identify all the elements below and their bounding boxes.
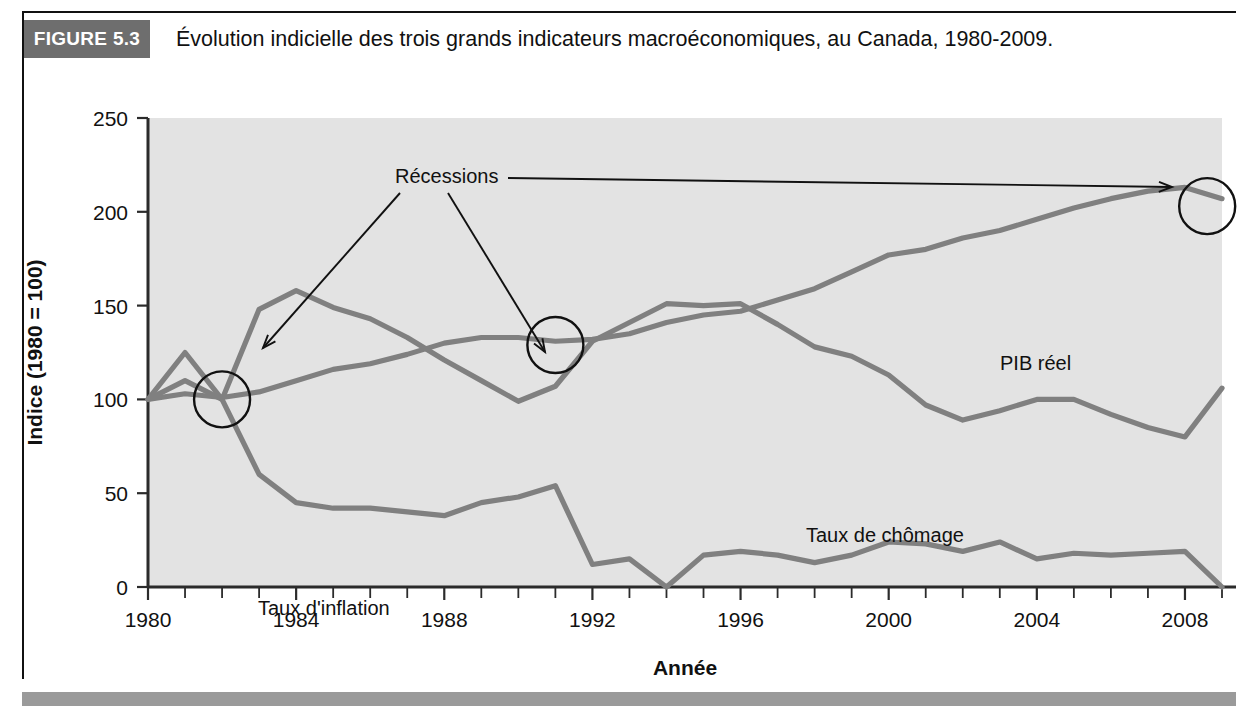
- chart-area: 050100150200250 198019841988199219962000…: [0, 90, 1258, 690]
- y-tick-labels: 050100150200250: [93, 107, 128, 599]
- x-tick-label: 1980: [125, 608, 172, 631]
- line-chart: 050100150200250 198019841988199219962000…: [0, 90, 1258, 690]
- y-tick-label: 200: [93, 201, 128, 224]
- x-tick-label: 2008: [1162, 608, 1209, 631]
- y-tick-label: 150: [93, 295, 128, 318]
- x-tick-label: 2004: [1013, 608, 1060, 631]
- y-tick-label: 100: [93, 388, 128, 411]
- series-label-taux-d-inflation: Taux d'inflation: [258, 597, 390, 619]
- y-tick-label: 0: [116, 576, 128, 599]
- figure-title: Évolution indicielle des trois grands in…: [176, 26, 1226, 53]
- series-label-pib-r-el: PIB réel: [1000, 352, 1071, 374]
- bottom-bar: [22, 692, 1236, 706]
- x-axis-title: Année: [653, 656, 717, 679]
- y-axis-title: Indice (1980 = 100): [23, 259, 46, 445]
- series-label-taux-de-ch-mage: Taux de chômage: [806, 524, 964, 546]
- x-tick-label: 2000: [865, 608, 912, 631]
- y-tick-label: 50: [105, 482, 128, 505]
- x-tick-label: 1988: [421, 608, 468, 631]
- recessions-label: Récessions: [395, 165, 498, 187]
- x-tick-label: 1992: [569, 608, 616, 631]
- figure-badge: FIGURE 5.3: [24, 20, 150, 58]
- x-tick-label: 1996: [717, 608, 764, 631]
- y-tick-label: 250: [93, 107, 128, 130]
- top-rule: [22, 11, 1236, 13]
- figure-root: FIGURE 5.3 Évolution indicielle des troi…: [0, 0, 1258, 723]
